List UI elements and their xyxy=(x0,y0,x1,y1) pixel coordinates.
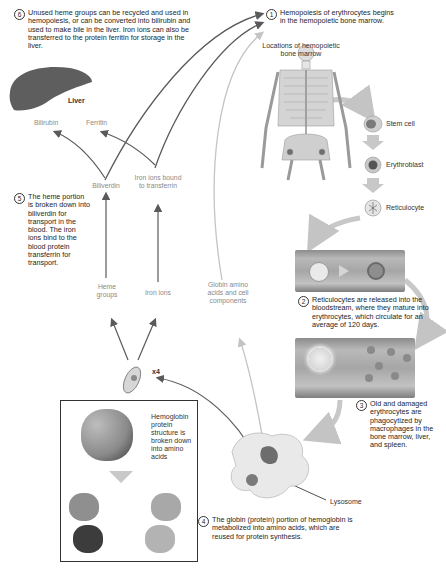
step-2: 2Reticulocytes are released into the blo… xyxy=(298,296,438,329)
iron-ions-label: Iron ions xyxy=(140,289,176,297)
maturation-arrow-icon xyxy=(339,265,349,277)
amino-acid-cluster-icon xyxy=(73,525,103,553)
step-2-number: 2 xyxy=(298,296,309,307)
step-6-number: 6 xyxy=(14,9,25,20)
bone-marrow-label: Locations of hemopoietic bone marrow xyxy=(258,42,344,58)
hemoglobin-breakdown-box: Hemoglobin protein structure is broken d… xyxy=(60,400,198,562)
step-6: 6Unused heme groups can be recycled and … xyxy=(14,9,200,50)
step-6-text: Unused heme groups can be recycled and u… xyxy=(28,9,198,50)
step-1: 1Hemopoiesis of erythrocytes begins in t… xyxy=(266,9,436,26)
step-5-number: 5 xyxy=(14,193,25,204)
amino-acid-cluster-icon xyxy=(151,493,181,521)
blood-vessel-reticulocyte xyxy=(295,250,405,292)
erythroblast-label: Erythroblast xyxy=(386,161,423,169)
arrow-globin-to-hemopoiesis xyxy=(214,33,262,280)
down-arrow-icon xyxy=(109,471,133,483)
reticulocyte-label: Reticulocyte xyxy=(386,204,424,212)
step-5: 5The heme portion is broken down into bi… xyxy=(14,193,94,268)
step-1-text: Hemopoiesis of erythrocytes begins in th… xyxy=(280,9,400,26)
ferritin-label: Ferritin xyxy=(86,119,107,127)
hemoglobin-box-label: Hemoglobin protein structure is broken d… xyxy=(151,413,195,461)
amino-acid-cluster-icon xyxy=(145,525,175,553)
bilirubin-label: Bilirubin xyxy=(34,119,58,127)
step-4-text: The globin (protein) portion of hemoglob… xyxy=(212,516,356,541)
globin-label: Globin amino acids and cell components xyxy=(206,281,250,305)
step-4-number: 4 xyxy=(198,516,209,527)
heme-groups-label: Heme groups xyxy=(92,283,122,299)
skeleton-icon xyxy=(262,45,350,180)
step-2-text: Reticulocytes are released into the bloo… xyxy=(312,296,434,329)
lysosome-icon xyxy=(246,474,258,486)
biliverdin-label: Biliverdin xyxy=(88,182,124,190)
amino-acid-cluster-icon xyxy=(69,493,99,521)
step-3-number: 3 xyxy=(356,400,367,411)
macrophage-icon xyxy=(231,433,308,498)
blood-vessel-erythrocytes xyxy=(295,338,415,398)
reticulocyte-in-vessel-icon xyxy=(309,262,329,282)
step-4: 4The globin (protein) portion of hemoglo… xyxy=(198,516,358,541)
step-3-text: Old and damaged erythrocytes are phagocy… xyxy=(370,400,440,450)
step-3: 3Old and damaged erythrocytes are phagoc… xyxy=(356,400,446,450)
lysosome-label: Lysosome xyxy=(330,498,362,506)
hemoglobin-protein-icon xyxy=(81,409,133,461)
x4-label: x4 xyxy=(152,368,160,376)
stem-cell-label: Stem cell xyxy=(386,120,415,128)
liver-label: Liver xyxy=(68,97,85,105)
iron-transferrin-label: Iron ions bound to transferrin xyxy=(134,174,182,190)
erythrocyte-icon xyxy=(367,262,385,280)
macrophage-cell-icon xyxy=(309,348,331,370)
step-1-number: 1 xyxy=(266,9,277,20)
step-5-text: The heme portion is broken down into bil… xyxy=(28,193,90,268)
